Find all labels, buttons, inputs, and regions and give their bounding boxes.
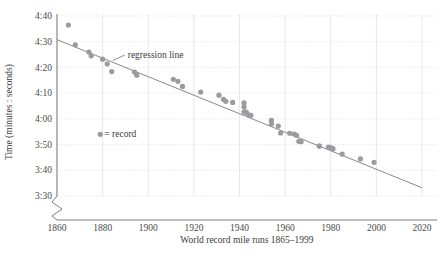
- regression-label-leader-line: [113, 55, 125, 61]
- axes: [52, 14, 437, 220]
- vertical-gridlines: [57, 14, 422, 196]
- y-tick-labels: 4:404:304:204:104:003:503:403:30: [35, 11, 52, 201]
- mile-record-scatter-chart: 4:404:304:204:104:003:503:403:30 1860188…: [0, 0, 447, 264]
- data-point: [330, 146, 335, 151]
- regression-line-label: regression line: [128, 50, 184, 60]
- data-point: [73, 42, 78, 47]
- data-point: [198, 90, 203, 95]
- data-point: [89, 53, 94, 58]
- x-tick-label-1: 1880: [93, 223, 112, 233]
- data-point: [223, 99, 228, 104]
- x-tick-labels: 186018801900192019401960198020002020: [48, 223, 432, 233]
- data-point: [175, 79, 180, 84]
- data-point: [298, 139, 303, 144]
- data-point: [109, 69, 114, 74]
- data-point: [276, 123, 281, 128]
- axis-break-zigzag: [52, 196, 62, 220]
- data-point: [216, 93, 221, 98]
- data-point: [100, 57, 105, 62]
- chart-container: 4:404:304:204:104:003:503:403:30 1860188…: [0, 0, 447, 264]
- data-point: [340, 151, 345, 156]
- x-tick-label-0: 1860: [48, 223, 67, 233]
- x-axis-title: World record mile runs 1865–1999: [180, 235, 314, 245]
- x-tick-label-2: 1900: [139, 223, 158, 233]
- y-tick-label-3: 4:10: [35, 88, 52, 98]
- y-axis-title: Time (minutes : seconds): [4, 64, 15, 160]
- x-tick-label-4: 1940: [230, 223, 249, 233]
- data-point: [134, 73, 139, 78]
- y-tick-label-6: 3:40: [35, 165, 52, 175]
- data-point: [317, 144, 322, 149]
- record-dot-icon: [98, 132, 103, 137]
- data-point: [171, 77, 176, 82]
- x-tick-label-6: 1980: [321, 223, 340, 233]
- data-point: [241, 104, 246, 109]
- data-point: [287, 131, 292, 136]
- y-tick-label-2: 4:20: [35, 63, 52, 73]
- x-tick-label-5: 1960: [276, 223, 295, 233]
- x-tick-label-7: 2000: [367, 223, 386, 233]
- x-tick-label-8: 2020: [413, 223, 432, 233]
- y-tick-label-5: 3:50: [35, 140, 52, 150]
- data-point: [105, 61, 110, 66]
- legend-label: = record: [104, 129, 136, 139]
- y-tick-label-7: 3:30: [35, 191, 52, 201]
- y-tick-label-4: 4:00: [35, 114, 52, 124]
- y-tick-label-0: 4:40: [35, 11, 52, 21]
- data-point: [180, 84, 185, 89]
- data-point: [248, 113, 253, 118]
- data-point: [358, 156, 363, 161]
- data-point: [371, 160, 376, 165]
- data-point: [230, 100, 235, 105]
- data-point: [269, 121, 274, 126]
- x-tick-label-3: 1920: [184, 223, 203, 233]
- y-tick-label-1: 4:30: [35, 37, 52, 47]
- data-point-group: [66, 22, 377, 165]
- data-point: [66, 22, 71, 27]
- data-point: [294, 133, 299, 138]
- horizontal-gridlines: [57, 16, 437, 196]
- data-point: [278, 130, 283, 135]
